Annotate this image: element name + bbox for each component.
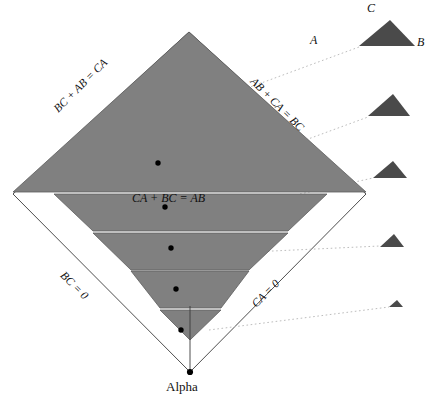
band-dot-5	[178, 327, 183, 332]
band-dot-2	[162, 204, 167, 209]
band-dot-1	[155, 160, 160, 165]
sample-triangle-3	[373, 161, 407, 178]
alpha-dot	[187, 369, 193, 375]
band-2	[54, 194, 327, 231]
band-dot-3	[168, 245, 173, 250]
key-triangle	[359, 20, 415, 46]
band-4	[131, 271, 249, 308]
band-dot-4	[173, 286, 178, 291]
diagram-canvas: BC + AB = CA AB + CA = BC CA + BC = AB B…	[0, 0, 436, 401]
band-1	[13, 32, 366, 192]
sample-triangle-2	[368, 94, 410, 116]
sample-triangles	[359, 20, 415, 307]
leader-line-5	[209, 307, 389, 330]
alpha-simplex-figure	[0, 0, 436, 401]
sample-triangle-4	[380, 234, 404, 247]
band-5	[160, 310, 221, 340]
band-3	[93, 233, 288, 270]
sample-triangle-5	[389, 300, 403, 307]
